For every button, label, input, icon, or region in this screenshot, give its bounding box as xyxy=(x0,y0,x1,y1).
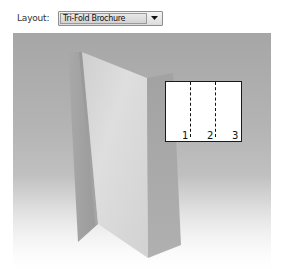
brochure-preview: 1 2 3 xyxy=(13,33,271,270)
layout-label: Layout: xyxy=(17,13,49,23)
panel-number-3: 3 xyxy=(232,130,238,141)
fold-line-2 xyxy=(215,82,216,137)
fold-line-1 xyxy=(190,82,191,137)
layout-dropdown-value[interactable]: Tri-Fold Brochure xyxy=(60,13,147,24)
layout-dropdown[interactable]: Tri-Fold Brochure xyxy=(58,11,163,26)
brochure-3d-illustration xyxy=(13,33,271,270)
layout-row: Layout: Tri-Fold Brochure xyxy=(0,0,286,32)
fold-diagram-inset: 1 2 3 xyxy=(165,81,242,142)
chevron-down-icon xyxy=(151,16,158,20)
panel-number-1: 1 xyxy=(182,130,188,141)
panel-number-2: 2 xyxy=(207,130,213,141)
dropdown-arrow-button[interactable] xyxy=(147,12,162,25)
